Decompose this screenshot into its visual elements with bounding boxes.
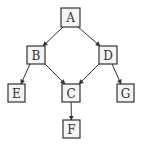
node-label: B xyxy=(32,49,41,63)
node-a: A xyxy=(61,8,80,27)
node-label: G xyxy=(121,87,131,101)
edge-d-c xyxy=(79,63,100,84)
node-label: D xyxy=(103,49,113,63)
node-f: F xyxy=(63,120,80,138)
node-label: E xyxy=(12,87,21,101)
node-c: C xyxy=(62,84,80,102)
node-label: C xyxy=(66,87,75,101)
diagram-canvas: ABDECGF xyxy=(0,0,145,149)
edge-a-d xyxy=(78,27,100,46)
edge-b-c xyxy=(44,63,65,84)
edge-d-g xyxy=(112,64,121,84)
edge-b-e xyxy=(21,64,30,84)
node-g: G xyxy=(117,84,134,102)
node-label: F xyxy=(67,123,75,137)
node-e: E xyxy=(8,84,25,102)
node-label: A xyxy=(65,11,75,25)
node-d: D xyxy=(99,46,117,64)
node-b: B xyxy=(27,46,45,64)
edge-a-b xyxy=(43,27,63,46)
edges xyxy=(21,27,121,120)
